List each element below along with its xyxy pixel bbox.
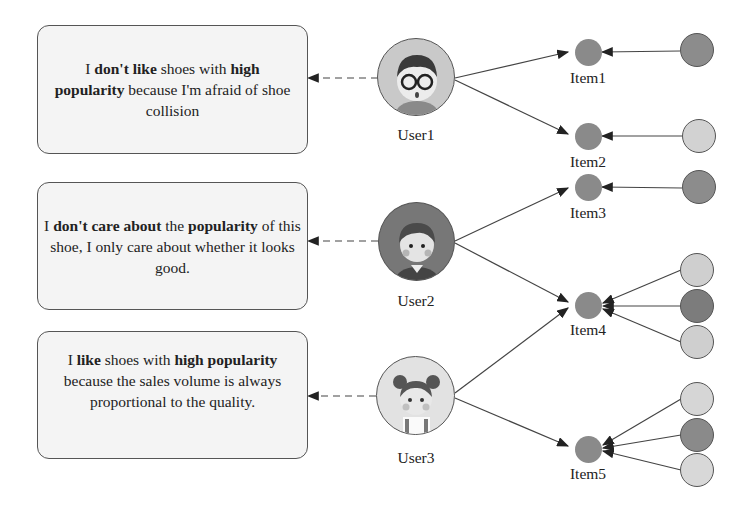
other-user-avatar-icon <box>680 382 714 416</box>
user2-label: User2 <box>376 292 456 310</box>
opinion-box-user2: I don't care about the popularity of thi… <box>37 182 308 310</box>
girl-short-hair-icon <box>379 203 455 281</box>
opinion-text: I don't care about the popularity of thi… <box>44 215 301 278</box>
user3-avatar <box>376 356 455 435</box>
item3-node <box>575 174 602 201</box>
girl-buns-icon <box>377 357 455 435</box>
other-user-avatar-icon <box>682 170 716 204</box>
opinion-text: I like shoes with high popularity becaus… <box>44 349 301 412</box>
other-user-avatar-icon <box>680 253 714 287</box>
item3-label: Item3 <box>548 204 628 222</box>
user3-label: User3 <box>376 449 456 467</box>
item4-label: Item4 <box>548 321 628 339</box>
item2-node <box>575 123 602 150</box>
other-user-avatar-icon <box>682 119 716 153</box>
item2-label: Item2 <box>548 153 628 171</box>
other-user-avatar-icon <box>680 289 714 323</box>
item4-node <box>575 292 602 319</box>
opinion-box-user3: I like shoes with high popularity becaus… <box>37 331 308 459</box>
user1-avatar <box>377 38 455 116</box>
opinion-box-user1: I don't like shoes with high popularity … <box>37 25 308 154</box>
user2-avatar <box>378 202 455 281</box>
user1-label: User1 <box>376 126 456 144</box>
item1-label: Item1 <box>548 69 628 87</box>
other-user-avatar-icon <box>680 325 714 359</box>
other-user-avatar-icon <box>680 418 714 452</box>
boy-glasses-icon <box>378 39 455 116</box>
item5-node <box>575 436 602 463</box>
item1-node <box>575 39 602 66</box>
opinion-text: I don't like shoes with high popularity … <box>53 58 293 121</box>
item5-label: Item5 <box>548 465 628 483</box>
other-user-avatar-icon <box>680 33 714 67</box>
other-user-avatar-icon <box>680 453 714 487</box>
